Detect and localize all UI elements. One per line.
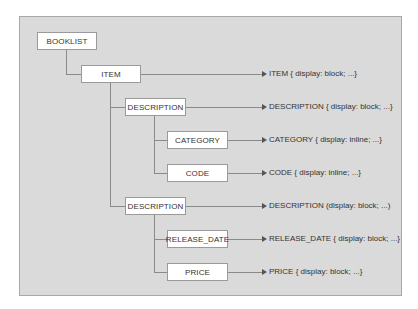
node-booklist: BOOKLIST [37, 32, 97, 50]
rule-price: PRICE { display: block; ...} [269, 267, 362, 277]
connector-description1-trunk [154, 116, 155, 174]
rule-category: CATEGORY { display: inline; ...} [269, 135, 382, 145]
arrow-icon [262, 104, 267, 110]
arrow-icon [262, 236, 267, 242]
rule-code: CODE { display: inline; ...} [269, 168, 361, 178]
node-price: PRICE [167, 263, 228, 281]
node-description: DESCRIPTION [125, 197, 186, 215]
node-item: ITEM [81, 65, 141, 83]
rule-description: DESCRIPTION { display: block; ...} [269, 102, 393, 112]
rule-line-description2 [186, 206, 262, 207]
node-category: CATEGORY [167, 131, 228, 149]
arrow-icon [262, 71, 267, 77]
connector-item-description2 [110, 206, 125, 207]
connector-description1-category [154, 140, 167, 141]
connector-booklist-item-h [66, 74, 81, 75]
rule-line-price [228, 272, 262, 273]
diagram-panel [19, 16, 402, 296]
rule-item: ITEM { display: block; ...} [269, 69, 357, 79]
rule-line-description1 [186, 107, 262, 108]
rule-release-date: RELEASE_DATE { display: block; ...} [269, 234, 400, 244]
connector-item-description1 [110, 107, 125, 108]
rule-line-release-date [228, 239, 262, 240]
node-description: DESCRIPTION [125, 98, 186, 116]
arrow-icon [262, 269, 267, 275]
connector-description2-trunk [154, 215, 155, 273]
rule-line-item [141, 74, 262, 75]
arrow-icon [262, 137, 267, 143]
connector-booklist-item [66, 50, 67, 74]
rule-description: DESCRIPTION (display: block; ...) [269, 201, 390, 211]
arrow-icon [262, 170, 267, 176]
connector-item-trunk [110, 83, 111, 207]
rule-line-category [228, 140, 262, 141]
connector-description2-price [154, 272, 167, 273]
rule-line-code [228, 173, 262, 174]
node-release-date: RELEASE_DATE [167, 230, 228, 248]
arrow-icon [262, 203, 267, 209]
connector-description1-code [154, 173, 167, 174]
node-code: CODE [167, 164, 228, 182]
